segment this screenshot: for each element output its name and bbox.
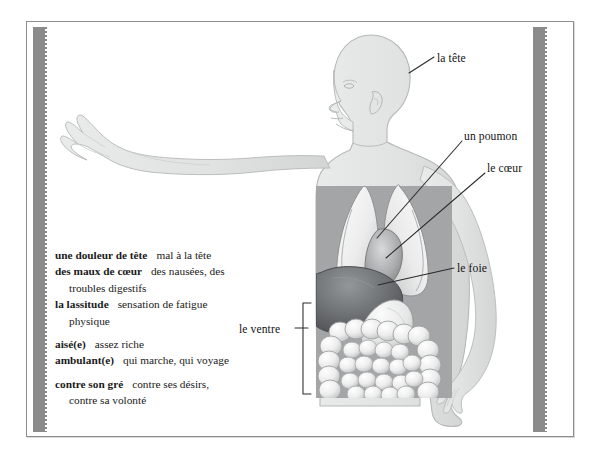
label-le-foie: le foie [457,262,487,275]
glossary-term: des maux de cœur [55,265,142,277]
label-un-poumon: un poumon [464,130,517,143]
glossary-definition-continued: physique [55,313,305,329]
glossary-term: aisé(e) [55,338,86,350]
label-le-coeur: le cœur [487,162,522,175]
page-root: la tête un poumon le cœur le foie le ven… [0,0,594,459]
glossary-spacer [55,329,305,336]
glossary-term: la lassitude [55,298,109,310]
glossary-list: une douleur de têtemal à la tête des mau… [55,247,305,409]
glossary-definition-continued: troubles digestifs [55,280,305,296]
label-la-tete: la tête [437,52,466,65]
glossary-term: contre son gré [55,378,123,390]
glossary-definition: des nausées, des [151,265,225,277]
glossary-entry-5: contre son grécontre ses désirs, [55,376,305,392]
left-gutter-bar [33,27,45,432]
glossary-definition: contre ses désirs, [132,378,209,390]
glossary-entry-0: une douleur de têtemal à la tête [55,247,305,263]
glossary-spacer [55,369,305,376]
glossary-definition-continued: contre sa volonté [55,392,305,408]
glossary-entry-2: la lassitudesensation de fatigue [55,296,305,312]
glossary-definition: sensation de fatigue [118,298,208,310]
glossary-definition: mal à la tête [156,249,211,261]
glossary-entry-3: aisé(e)assez riche [55,336,305,352]
glossary-definition: qui marche, qui voyage [123,354,229,366]
glossary-term: ambulant(e) [55,354,114,366]
glossary-entry-1: des maux de cœurdes nausées, des [55,263,305,279]
right-gutter-bar [533,27,545,432]
glossary-entry-4: ambulant(e)qui marche, qui voyage [55,352,305,368]
glossary-definition: assez riche [95,338,144,350]
glossary-term: une douleur de tête [55,249,147,261]
